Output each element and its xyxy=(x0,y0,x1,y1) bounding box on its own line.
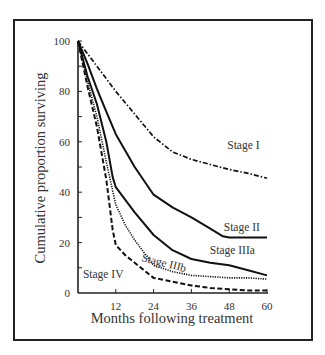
curve-stage-iiia xyxy=(78,41,267,275)
y-tick-label: 20 xyxy=(59,237,71,249)
y-axis-title: Cumulative proportion surviving xyxy=(32,73,48,264)
label-stage-iiia: Stage IIIa xyxy=(210,244,255,257)
y-tick-label: 60 xyxy=(59,136,71,148)
survival-chart: 020406080100 1224364860 Stage IStage IIS… xyxy=(0,0,325,355)
label-stage-i: Stage I xyxy=(227,139,259,152)
y-tick-label: 80 xyxy=(59,85,71,97)
x-axis-title: Months following treatment xyxy=(91,310,254,326)
x-tick-label: 60 xyxy=(262,300,274,312)
y-tick-label: 0 xyxy=(65,287,71,299)
label-stage-iv: Stage IV xyxy=(83,268,124,281)
y-tick-label: 40 xyxy=(59,186,71,198)
y-tick-label: 100 xyxy=(54,35,71,47)
label-stage-ii: Stage II xyxy=(224,221,260,234)
